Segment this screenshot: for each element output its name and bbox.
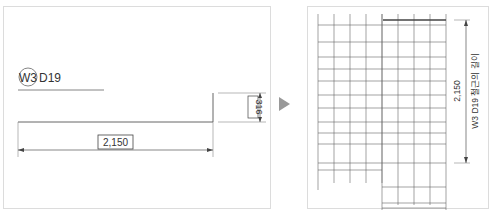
cutting-layout-panel: 2,150 W3 D19 철근의 길이 bbox=[307, 6, 489, 209]
bar-mark-label: W3 bbox=[19, 71, 37, 85]
total-length-label: 2,150 bbox=[103, 137, 128, 148]
dimension-value: 2,150 bbox=[452, 80, 462, 102]
bar-size-label: D19 bbox=[39, 71, 61, 85]
rebar-grid bbox=[318, 14, 446, 210]
dimension-caption: W3 D19 철근의 길이 bbox=[470, 53, 480, 128]
cutting-grid-drawing: 2,150 W3 D19 철근의 길이 bbox=[308, 7, 490, 210]
bar-detail-panel: W3 D19 316 2,150 bbox=[3, 6, 271, 209]
hook-length-label: 316 bbox=[254, 99, 264, 114]
bar-detail-drawing: W3 D19 316 2,150 bbox=[4, 7, 272, 210]
play-arrow-icon bbox=[279, 97, 290, 111]
